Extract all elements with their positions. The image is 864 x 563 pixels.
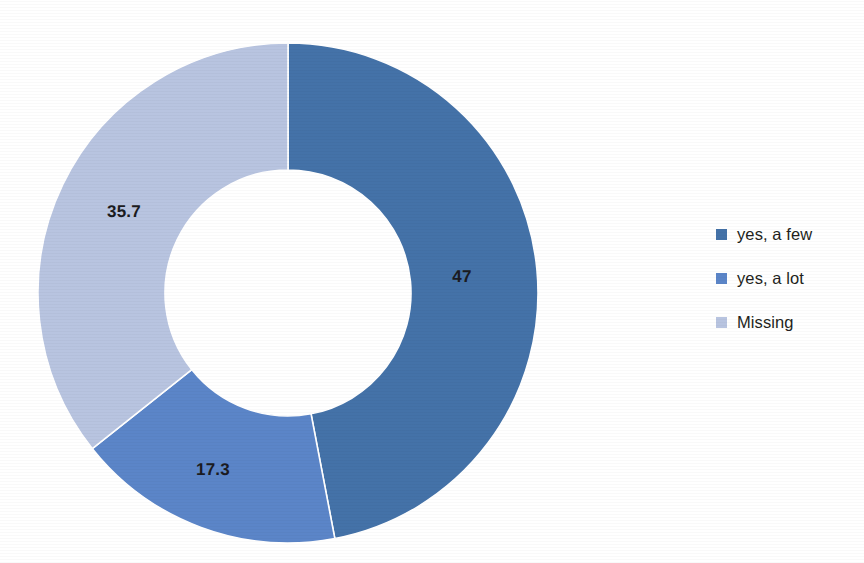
slice-value-label-yes-a-lot: 17.3 xyxy=(196,460,230,480)
donut-slice-group xyxy=(38,43,538,543)
donut-slice[interactable] xyxy=(288,43,538,539)
donut-slice[interactable] xyxy=(38,43,288,449)
donut-svg xyxy=(38,43,538,543)
legend-swatch-icon-missing xyxy=(716,317,727,328)
legend-item-yes-a-lot[interactable]: yes, a lot xyxy=(716,256,856,300)
legend-label-missing: Missing xyxy=(737,313,794,332)
slice-value-label-missing: 35.7 xyxy=(107,202,141,222)
legend-swatch-icon-yes-a-few xyxy=(716,229,727,240)
legend-label-yes-a-lot: yes, a lot xyxy=(737,269,804,288)
slice-value-label-yes-a-few: 47 xyxy=(452,267,471,287)
donut-chart-figure: 47 17.3 35.7 yes, a few yes, a lot Missi… xyxy=(0,0,864,563)
legend-item-yes-a-few[interactable]: yes, a few xyxy=(716,212,856,256)
legend-label-yes-a-few: yes, a few xyxy=(737,225,812,244)
chart-legend: yes, a few yes, a lot Missing xyxy=(716,212,856,344)
legend-item-missing[interactable]: Missing xyxy=(716,300,856,344)
donut-plot-area xyxy=(38,43,538,543)
legend-swatch-icon-yes-a-lot xyxy=(716,273,727,284)
